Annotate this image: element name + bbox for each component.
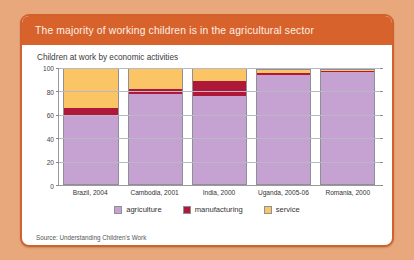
card-header: The majority of working children is in t… [22, 16, 392, 45]
x-axis-tick-label: Brazil, 2004 [63, 189, 118, 196]
legend-label: service [276, 205, 300, 214]
y-tick-mark-right [380, 115, 383, 116]
bar-segment-agriculture[interactable] [320, 72, 375, 185]
y-tick-mark [56, 138, 59, 139]
gridline [59, 91, 380, 92]
y-tick-label: 0 [50, 183, 54, 190]
legend-label: agriculture [126, 205, 161, 214]
page-title: The majority of working children is in t… [35, 25, 314, 36]
legend-item-manufacturing[interactable]: manufacturing [183, 205, 243, 214]
legend-item-service[interactable]: service [264, 205, 300, 214]
y-tick-mark-right [380, 162, 383, 163]
y-tick-mark-right [380, 138, 383, 139]
chart-card: The majority of working children is in t… [20, 14, 394, 247]
legend-swatch-manufacturing [183, 206, 191, 214]
legend-swatch-agriculture [114, 206, 122, 214]
y-tick-mark-right [380, 68, 383, 69]
y-tick-label: 80 [47, 88, 54, 95]
y-tick-mark [56, 185, 59, 186]
bar-column[interactable] [128, 68, 183, 185]
y-axis: 020406080100 [36, 68, 56, 186]
x-axis-tick-label: Romania, 2000 [320, 189, 375, 196]
bar-segment-manufacturing[interactable] [192, 81, 247, 96]
bar-segment-service[interactable] [192, 68, 247, 81]
gridline [59, 162, 380, 163]
source-note: Source: Understanding Children's Work [36, 234, 146, 241]
card-body: Children at work by economic activities … [22, 45, 392, 247]
plot-wrapper: 020406080100 [36, 68, 382, 186]
y-tick-mark [56, 68, 59, 69]
bar-segment-agriculture[interactable] [128, 94, 183, 185]
x-axis-tick-label: India, 2000 [191, 189, 246, 196]
bar-column[interactable] [256, 68, 311, 185]
bar-segment-service[interactable] [128, 68, 183, 89]
gridline [59, 138, 380, 139]
x-axis-labels: Brazil, 2004Cambodia, 2001India, 2000Uga… [58, 189, 380, 196]
legend-item-agriculture[interactable]: agriculture [114, 205, 161, 214]
y-tick-mark-right [380, 185, 383, 186]
y-tick-mark [56, 162, 59, 163]
chart-legend: agriculturemanufacturingservice [32, 205, 382, 214]
bar-column[interactable] [63, 68, 118, 185]
y-tick-mark [56, 91, 59, 92]
bar-segment-agriculture[interactable] [63, 115, 118, 185]
y-tick-label: 40 [47, 135, 54, 142]
bar-column[interactable] [192, 68, 247, 185]
y-tick-label: 100 [43, 65, 54, 72]
bar-segment-service[interactable] [63, 68, 118, 108]
y-tick-label: 60 [47, 112, 54, 119]
chart-subtitle: Children at work by economic activities [37, 53, 382, 62]
legend-swatch-service [264, 206, 272, 214]
y-tick-label: 20 [47, 159, 54, 166]
plot-area [58, 68, 380, 186]
bar-segment-agriculture[interactable] [192, 96, 247, 185]
x-axis-tick-label: Uganda, 2005-06 [256, 189, 311, 196]
y-tick-mark-right [380, 91, 383, 92]
x-axis-tick-label: Cambodia, 2001 [127, 189, 182, 196]
bar-segment-manufacturing[interactable] [63, 108, 118, 115]
gridline [59, 68, 380, 69]
bar-column[interactable] [320, 68, 375, 185]
legend-label: manufacturing [195, 205, 243, 214]
y-tick-mark [56, 115, 59, 116]
bar-group [59, 68, 380, 185]
gridline [59, 115, 380, 116]
